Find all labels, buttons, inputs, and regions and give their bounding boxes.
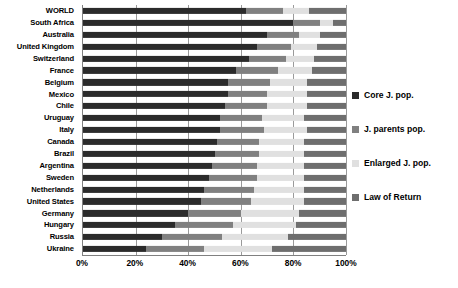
bar-segment[interactable]: [283, 8, 309, 14]
bar-segment[interactable]: [299, 210, 346, 216]
bar-segment[interactable]: [278, 67, 312, 73]
stacked-bar[interactable]: [83, 139, 346, 145]
bar-segment[interactable]: [83, 175, 209, 181]
bar-segment[interactable]: [228, 91, 267, 97]
bar-segment[interactable]: [83, 91, 228, 97]
bar-segment[interactable]: [267, 91, 306, 97]
stacked-bar[interactable]: [83, 67, 346, 73]
legend-item[interactable]: Law of Return: [352, 192, 456, 202]
stacked-bar[interactable]: [83, 186, 346, 192]
bar-segment[interactable]: [225, 103, 267, 109]
bar-segment[interactable]: [83, 103, 225, 109]
bar-segment[interactable]: [320, 32, 346, 38]
bar-segment[interactable]: [220, 115, 262, 121]
legend-item[interactable]: J. parents pop.: [352, 124, 456, 134]
bar-segment[interactable]: [83, 32, 267, 38]
bar-segment[interactable]: [83, 67, 236, 73]
bar-segment[interactable]: [320, 20, 333, 26]
stacked-bar[interactable]: [83, 210, 346, 216]
bar-segment[interactable]: [317, 44, 346, 50]
bar-segment[interactable]: [254, 186, 304, 192]
bar-segment[interactable]: [215, 151, 260, 157]
bar-segment[interactable]: [83, 44, 257, 50]
stacked-bar[interactable]: [83, 151, 346, 157]
bar-segment[interactable]: [307, 91, 346, 97]
legend-item[interactable]: Core J. pop.: [352, 90, 456, 100]
bar-segment[interactable]: [83, 115, 220, 121]
bar-segment[interactable]: [314, 55, 346, 61]
bar-segment[interactable]: [83, 210, 188, 216]
stacked-bar[interactable]: [83, 175, 346, 181]
bar-segment[interactable]: [259, 139, 304, 145]
bar-segment[interactable]: [83, 234, 162, 240]
bar-segment[interactable]: [83, 8, 246, 14]
bar-segment[interactable]: [83, 163, 212, 169]
bar-segment[interactable]: [175, 222, 233, 228]
stacked-bar[interactable]: [83, 44, 346, 50]
bar-segment[interactable]: [236, 67, 278, 73]
bar-segment[interactable]: [307, 79, 346, 85]
bar-segment[interactable]: [304, 186, 346, 192]
bar-segment[interactable]: [83, 55, 249, 61]
bar-segment[interactable]: [204, 186, 254, 192]
bar-segment[interactable]: [217, 139, 259, 145]
stacked-bar[interactable]: [83, 20, 346, 26]
bar-segment[interactable]: [333, 20, 346, 26]
bar-segment[interactable]: [291, 44, 317, 50]
bar-segment[interactable]: [286, 55, 315, 61]
bar-segment[interactable]: [83, 79, 228, 85]
bar-segment[interactable]: [249, 55, 286, 61]
bar-segment[interactable]: [312, 67, 346, 73]
bar-segment[interactable]: [83, 198, 201, 204]
stacked-bar[interactable]: [83, 246, 346, 252]
stacked-bar[interactable]: [83, 55, 346, 61]
stacked-bar[interactable]: [83, 234, 346, 240]
stacked-bar[interactable]: [83, 79, 346, 85]
bar-segment[interactable]: [220, 127, 265, 133]
stacked-bar[interactable]: [83, 127, 346, 133]
bar-segment[interactable]: [162, 234, 222, 240]
bar-segment[interactable]: [83, 127, 220, 133]
bar-segment[interactable]: [83, 246, 146, 252]
bar-segment[interactable]: [246, 8, 283, 14]
bar-segment[interactable]: [264, 127, 306, 133]
bar-segment[interactable]: [222, 234, 288, 240]
bar-segment[interactable]: [304, 139, 346, 145]
bar-segment[interactable]: [241, 210, 299, 216]
bar-segment[interactable]: [188, 210, 241, 216]
bar-segment[interactable]: [83, 186, 204, 192]
bar-segment[interactable]: [257, 163, 304, 169]
bar-segment[interactable]: [267, 32, 299, 38]
bar-segment[interactable]: [212, 163, 257, 169]
stacked-bar[interactable]: [83, 163, 346, 169]
bar-segment[interactable]: [209, 175, 256, 181]
bar-segment[interactable]: [83, 139, 217, 145]
bar-segment[interactable]: [201, 198, 251, 204]
bar-segment[interactable]: [83, 222, 175, 228]
bar-segment[interactable]: [307, 127, 346, 133]
bar-segment[interactable]: [304, 115, 346, 121]
bar-segment[interactable]: [296, 222, 346, 228]
stacked-bar[interactable]: [83, 198, 346, 204]
bar-segment[interactable]: [262, 115, 304, 121]
bar-segment[interactable]: [309, 8, 346, 14]
bar-segment[interactable]: [259, 151, 304, 157]
bar-segment[interactable]: [304, 198, 346, 204]
bar-segment[interactable]: [83, 20, 293, 26]
bar-segment[interactable]: [251, 198, 304, 204]
bar-segment[interactable]: [146, 246, 204, 252]
bar-segment[interactable]: [228, 79, 270, 85]
stacked-bar[interactable]: [83, 103, 346, 109]
bar-segment[interactable]: [304, 175, 346, 181]
bar-segment[interactable]: [299, 32, 320, 38]
bar-segment[interactable]: [257, 175, 304, 181]
bar-segment[interactable]: [307, 103, 346, 109]
bar-segment[interactable]: [83, 151, 215, 157]
stacked-bar[interactable]: [83, 115, 346, 121]
stacked-bar[interactable]: [83, 8, 346, 14]
bar-segment[interactable]: [272, 246, 346, 252]
stacked-bar[interactable]: [83, 32, 346, 38]
bar-segment[interactable]: [288, 234, 346, 240]
bar-segment[interactable]: [270, 79, 307, 85]
stacked-bar[interactable]: [83, 91, 346, 97]
